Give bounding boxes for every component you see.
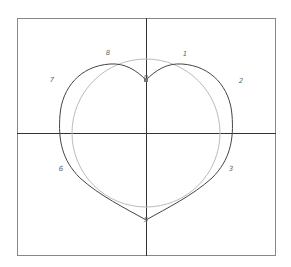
point-label: 0	[144, 74, 149, 82]
point-label: 8	[106, 49, 111, 57]
point-label: 1	[183, 50, 187, 58]
point-label: 6	[59, 165, 64, 173]
point-label: 7	[50, 76, 55, 84]
heart-diagram: 12356780	[0, 0, 291, 267]
point-label: 3	[229, 165, 233, 173]
point-label: 2	[239, 77, 244, 85]
point-label: 5	[144, 216, 149, 224]
